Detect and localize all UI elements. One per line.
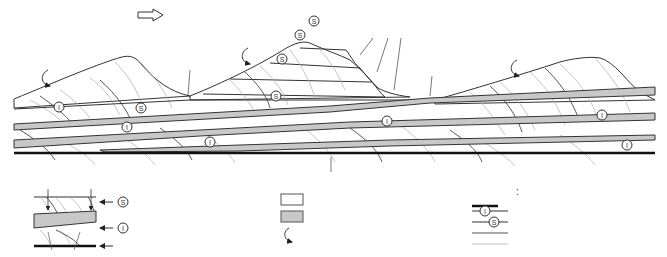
dune-facies-swatch [281,194,303,205]
marker-i-2: I [122,122,132,132]
marker-s-4: S [271,91,281,101]
svg-text:I: I [58,104,60,111]
svg-text:I: I [386,118,388,125]
svg-text:I: I [626,142,628,149]
svg-text:I: I [209,139,211,146]
superimposition-legend-symbol: S [472,217,508,227]
marker-s-2: S [295,30,305,40]
svg-text:S: S [298,32,303,39]
svg-text:S: S [280,56,285,63]
svg-text:I: I [126,124,128,131]
svg-text:S: S [312,18,317,25]
svg-text:S: S [492,219,497,226]
svg-text:I: I [601,112,603,119]
inset-diagram: S I [34,189,128,250]
marker-s-3: S [277,54,287,64]
marker-i-1: I [54,102,64,112]
interdune-migration-legend-symbol: I [472,206,508,216]
marker-i-5: I [597,110,607,120]
inset-i-symbol: I [122,225,124,232]
curved-arrow-icon [285,228,292,242]
wind-arrow-icon [138,9,163,21]
marker-i-6: I [622,140,632,150]
inset-s-symbol: S [121,199,126,206]
marker-s-5: S [136,103,146,113]
marker-i-4: I [382,116,392,126]
marker-i-3: I [205,137,215,147]
svg-text:I: I [484,208,486,215]
interdune-facies-swatch [281,211,303,222]
svg-text:S: S [274,93,279,100]
marker-s-1: S [309,16,319,26]
stratigraphic-surface-title: : [516,186,519,197]
svg-text:S: S [139,105,144,112]
cross-section-diagram: S S S S S I I I I I I [0,0,667,257]
